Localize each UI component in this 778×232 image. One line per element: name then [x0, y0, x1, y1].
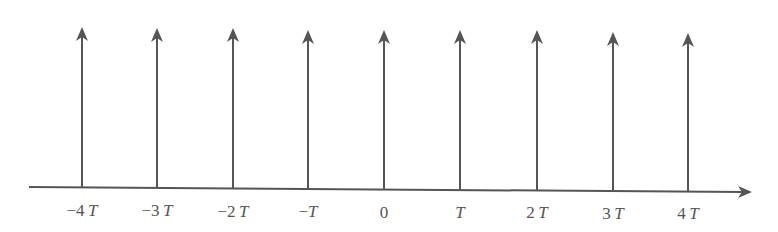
impulse — [227, 28, 239, 189]
tick-variable: T — [686, 204, 699, 223]
tick-coefficient: 0 — [380, 203, 389, 222]
tick-coefficient: −4 — [67, 201, 85, 220]
tick-variable: T — [455, 203, 464, 222]
impulse — [378, 30, 390, 190]
impulse — [454, 30, 466, 190]
tick-coefficient: 4 — [677, 204, 686, 223]
impulse — [682, 33, 694, 191]
tick-coefficient: −2 — [218, 202, 236, 221]
tick-coefficient: 3 — [602, 204, 611, 223]
tick-label: 3 T — [602, 204, 623, 224]
impulse — [607, 32, 619, 191]
tick-label: −3 T — [142, 201, 173, 221]
tick-label: −2 T — [218, 202, 249, 222]
tick-variable: T — [308, 202, 317, 221]
impulses-group — [76, 27, 694, 191]
tick-variable: T — [535, 203, 548, 222]
impulse — [151, 28, 163, 188]
impulse — [531, 30, 543, 190]
tick-label: −4 T — [67, 201, 98, 221]
tick-coefficient: 2 — [526, 203, 535, 222]
tick-variable: T — [611, 204, 624, 223]
tick-variable: T — [85, 201, 98, 220]
tick-variable: T — [160, 201, 173, 220]
tick-label: 0 — [380, 203, 389, 223]
impulse — [302, 30, 314, 189]
impulse-train-diagram — [0, 0, 778, 232]
tick-label: 2 T — [526, 203, 547, 223]
tick-label: 4 T — [677, 204, 698, 224]
tick-label: T — [455, 203, 464, 223]
tick-label: −T — [298, 202, 317, 222]
tick-coefficient: −3 — [142, 201, 160, 220]
tick-coefficient: − — [298, 202, 308, 221]
time-axis — [29, 187, 742, 192]
tick-variable: T — [236, 202, 249, 221]
impulse — [76, 27, 88, 188]
